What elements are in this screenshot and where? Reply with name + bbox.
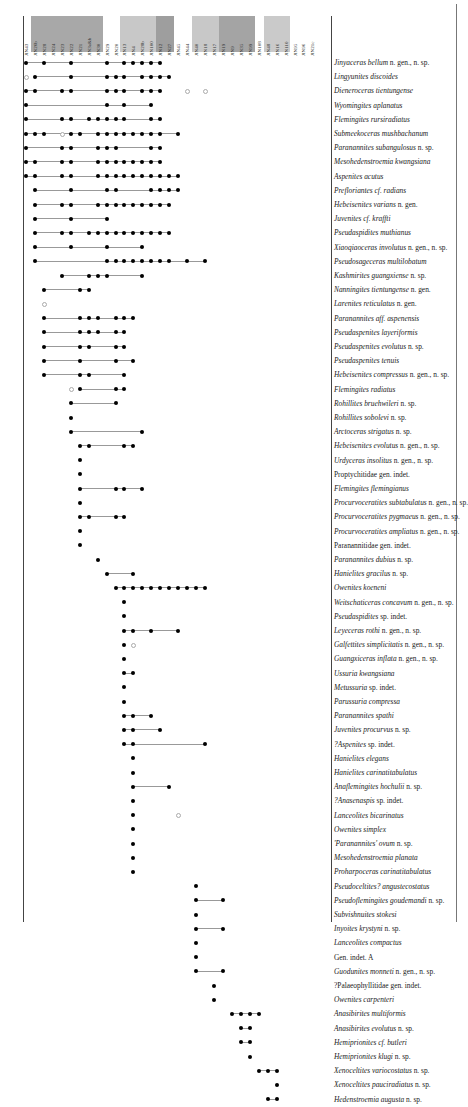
occurrence-dot (122, 316, 126, 320)
occurrence-dot (105, 89, 109, 93)
sample-column-label: JIN108 (255, 16, 263, 56)
occurrence-dot (105, 132, 109, 136)
occurrence-dot (87, 117, 91, 121)
taxon-status: n. sp. (409, 271, 427, 280)
taxon-status: n. sp. (393, 1052, 411, 1061)
taxon-status: gen. indet. (378, 541, 411, 550)
occurrence-dot (78, 487, 82, 491)
occurrence-dot (114, 401, 118, 405)
taxon-name: Wyomingites aplanatus (334, 101, 403, 110)
occurrence-dot (194, 884, 198, 888)
taxon-name: Paranannites aff. aspenensis (334, 314, 419, 323)
taxon-name: Nanningites tientungense (334, 285, 409, 294)
occurrence-dot (140, 160, 144, 164)
taxon-label: Submeekoceras mushbachanum (334, 127, 428, 141)
occurrence-dot (33, 132, 37, 136)
uncertain-occurrence-dot (69, 387, 74, 392)
taxon-status: n. gen. (409, 285, 431, 294)
occurrence-dot (78, 472, 82, 476)
taxon-label: Flemingites rursiradiatus (334, 113, 410, 127)
occurrence-dot (78, 373, 82, 377)
occurrence-dot (122, 444, 126, 448)
occurrence-dot (122, 345, 126, 349)
occurrence-dot (140, 245, 144, 249)
taxon-label: Juvenites procurvus n. sp. (334, 723, 411, 737)
occurrence-dot (122, 174, 126, 178)
occurrence-dot (122, 742, 126, 746)
range-line (44, 360, 134, 361)
occurrence-dot (158, 188, 162, 192)
occurrence-dot (105, 61, 109, 65)
range-line (26, 119, 160, 120)
occurrence-dot (96, 160, 100, 164)
range-line (80, 488, 143, 489)
taxon-row: Lanceolites compactus (0, 936, 466, 950)
taxon-label: Nanningites tientungense n. gen. (334, 283, 431, 297)
taxon-name: 'Paranannites' ovum (334, 839, 395, 848)
occurrence-dot (131, 785, 135, 789)
range-line (107, 573, 134, 574)
taxon-row: Hebeisenites compressus n. gen., n. sp. (0, 368, 466, 382)
taxon-label: Pseudoflemingites goudemandi n. sp. (334, 894, 444, 908)
taxon-status: n. gen., n. sp. (392, 456, 433, 465)
sample-column-label: JIN99 (246, 16, 254, 56)
occurrence-dot (122, 600, 126, 604)
taxon-row: Weitschaticeras concavum n. gen., n. sp. (0, 596, 466, 610)
sample-column-label: JIN20 (112, 16, 120, 56)
occurrence-dot (131, 203, 135, 207)
taxon-name: Parussuria compressa (334, 697, 400, 706)
occurrence-dot (33, 160, 37, 164)
taxon-label: Pseudosageceras multilobatum (334, 255, 427, 269)
taxon-name: Inyoites krystyni (334, 924, 383, 933)
occurrence-dot (78, 543, 82, 547)
occurrence-dot (42, 61, 46, 65)
taxon-row: Xenoceltites pauciradiatus n. sp. (0, 1078, 466, 1092)
range-line (124, 715, 151, 716)
occurrence-dot (203, 259, 207, 263)
taxon-row: Hebeisenites varians n. gen. (0, 198, 466, 212)
occurrence-dot (114, 203, 118, 207)
occurrence-dot (122, 685, 126, 689)
occurrence-dot (60, 117, 64, 121)
taxon-name: Submeekoceras mushbachanum (334, 129, 428, 138)
sample-column-label: JIN22 (67, 16, 75, 56)
taxon-label: Jinyaceras bellum n. gen., n. sp. (334, 56, 429, 70)
occurrence-dot (69, 416, 73, 420)
sample-column-label: JIN21c (308, 16, 316, 56)
sample-column-label: JIN28b (138, 16, 146, 56)
taxon-row: Jinyaceras bellum n. gen., n. sp. (0, 56, 466, 70)
taxon-name: Hanielites gracilus (334, 569, 390, 578)
taxon-label: Procurvoceratites ampliatus n. gen., n. … (334, 525, 459, 539)
taxon-status: n. sp. (406, 342, 424, 351)
taxon-row: Procurvoceratites subtabulatus n. gen., … (0, 496, 466, 510)
occurrence-dot (122, 231, 126, 235)
occurrence-dot (122, 643, 126, 647)
occurrence-dot (69, 89, 73, 93)
range-line (80, 389, 125, 390)
taxon-row: Hebeisenites evolutus n. gen., n. sp. (0, 439, 466, 453)
taxon-row: 'Paranannites' ovum n. sp. (0, 837, 466, 851)
taxon-status: n. sp. (396, 1024, 414, 1033)
occurrence-dot (149, 203, 153, 207)
occurrence-dot (78, 529, 82, 533)
taxon-label: Xenoceltites pauciradiatus n. sp. (334, 1078, 431, 1092)
taxon-row: Metussuria sp. indet. (0, 681, 466, 695)
taxon-label: Guangxiceras inflata n. gen., n. sp. (334, 652, 438, 666)
occurrence-dot (140, 259, 144, 263)
taxon-label: Rohillites bruehwileri n. sp. (334, 397, 416, 411)
sample-column-label: JIN4 (129, 16, 137, 56)
taxon-label: Owenites carpenteri (334, 993, 394, 1007)
range-line (133, 786, 169, 787)
taxon-row: Pseudoceltites? angustecostatus (0, 880, 466, 894)
sample-column-label: JIN3a&b (85, 16, 93, 56)
occurrence-dot (122, 75, 126, 79)
occurrence-dot (60, 231, 64, 235)
taxon-status: n. sp. (427, 896, 445, 905)
range-line (124, 744, 205, 745)
taxon-name: Hanielites elegans (334, 754, 389, 763)
occurrence-dot (60, 203, 64, 207)
occurrence-dot (158, 146, 162, 150)
taxon-name: Juvenites procurvus (334, 725, 393, 734)
taxon-row: Rohillites sobolevi n. sp. (0, 411, 466, 425)
sample-column-label: JIN13 (120, 16, 128, 56)
